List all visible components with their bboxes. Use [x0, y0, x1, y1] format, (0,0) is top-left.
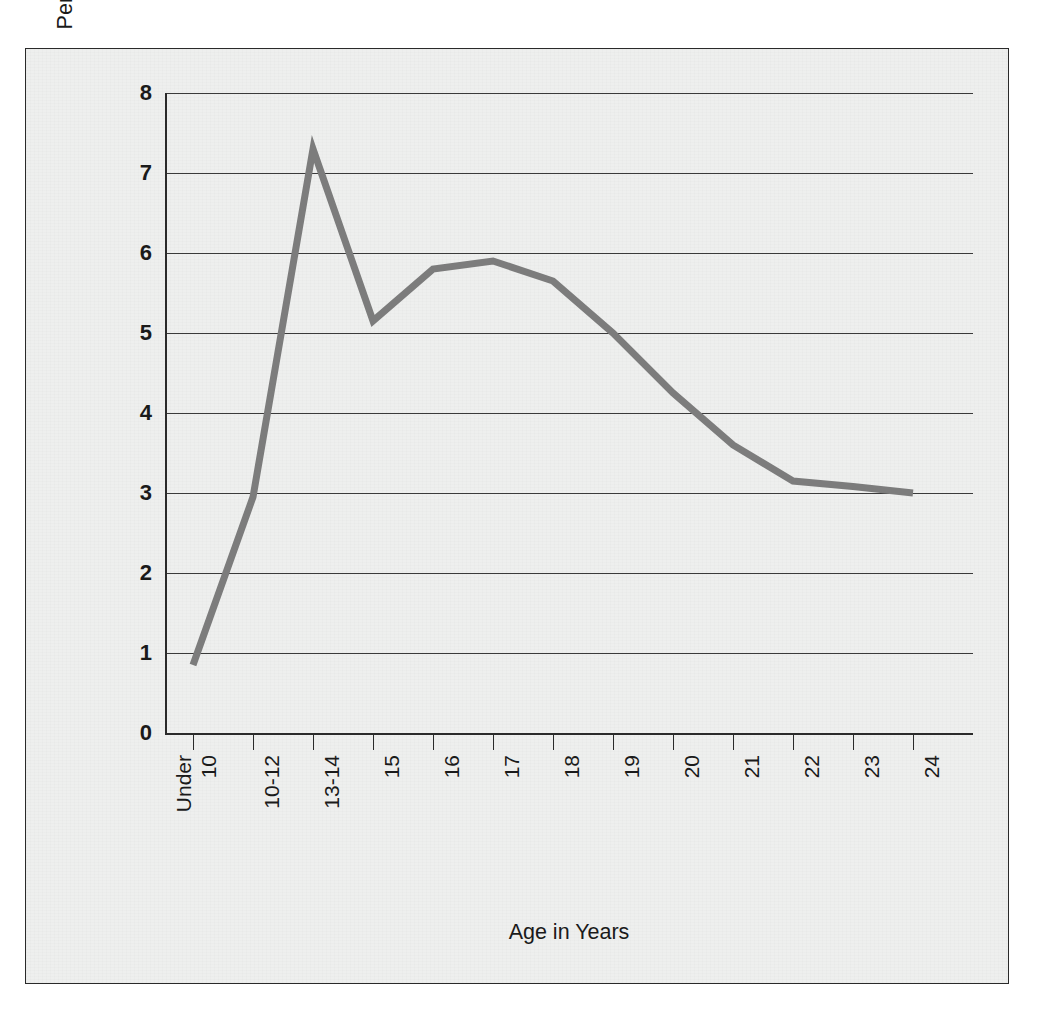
x-tick-label-6: 18	[561, 755, 583, 905]
y-tick-label-1: 1	[140, 642, 152, 664]
y-axis-title: Percentage of Age Group Arrested for Del…	[45, 0, 85, 135]
y-tick-label-2: 2	[140, 562, 152, 584]
x-tick-label-7: 19	[621, 755, 643, 905]
x-tick-mark-6	[553, 733, 554, 750]
x-tick-label-10: 22	[801, 755, 823, 905]
x-tick-mark-3	[373, 733, 374, 750]
y-tick-label-4: 4	[140, 402, 152, 424]
x-tick-label-0-line1: Under	[173, 755, 195, 905]
x-tick-mark-9	[733, 733, 734, 750]
x-tick-label-2: 13-14	[321, 755, 343, 905]
x-tick-label-12: 24	[921, 755, 943, 905]
x-tick-label-8: 20	[681, 755, 703, 905]
x-tick-mark-12	[913, 733, 914, 750]
x-tick-mark-2	[313, 733, 314, 750]
x-tick-label-5: 17	[501, 755, 523, 905]
x-tick-mark-1	[253, 733, 254, 750]
x-tick-mark-4	[433, 733, 434, 750]
y-tick-label-8: 8	[140, 82, 152, 104]
x-tick-label-9: 21	[741, 755, 763, 905]
x-tick-label-4: 16	[441, 755, 463, 905]
plot-area: 012345678 Under1010-1213-141516171819202…	[165, 93, 973, 733]
x-tick-label-1: 10-12	[261, 755, 283, 905]
x-axis-title: Age in Years	[165, 920, 973, 945]
x-tick-mark-8	[673, 733, 674, 750]
y-tick-label-7: 7	[140, 162, 152, 184]
y-tick-label-0: 0	[140, 722, 152, 744]
data-series-line	[165, 93, 973, 733]
y-tick-label-5: 5	[140, 322, 152, 344]
x-tick-label-11: 23	[861, 755, 883, 905]
x-tick-mark-0	[193, 733, 194, 750]
x-tick-mark-11	[853, 733, 854, 750]
y-tick-label-3: 3	[140, 482, 152, 504]
y-tick-label-6: 6	[140, 242, 152, 264]
x-tick-label-3: 15	[381, 755, 403, 905]
x-tick-mark-7	[613, 733, 614, 750]
x-tick-mark-5	[493, 733, 494, 750]
x-tick-mark-10	[793, 733, 794, 750]
x-tick-label-0-line2: 10	[198, 755, 220, 905]
x-axis-line	[165, 733, 973, 735]
